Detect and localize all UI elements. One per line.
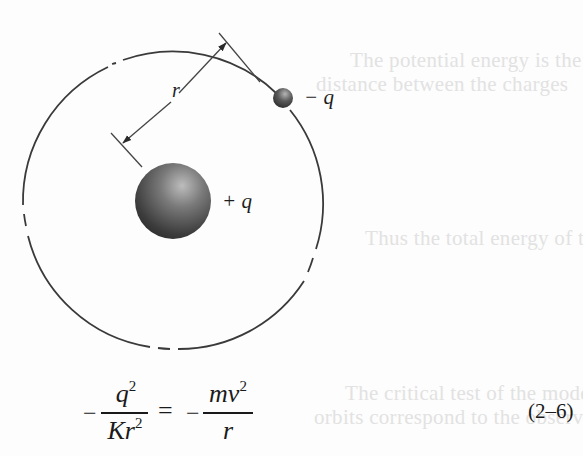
electron-sphere: [273, 88, 293, 108]
equation-number: (2–6): [528, 399, 574, 424]
equals-sign: =: [158, 396, 173, 426]
lhs-numerator: q2: [106, 379, 146, 409]
rhs-fraction-bar: [203, 412, 253, 414]
radius-label: r: [172, 79, 180, 102]
lhs-denominator: Kr2: [100, 416, 150, 446]
textbook-page: The potential energy is the product of t…: [0, 0, 583, 456]
radius-tick-bottom: [111, 133, 142, 167]
rhs-denominator: r: [203, 416, 253, 446]
radius-arrow-up: [179, 43, 226, 93]
lhs-fraction-bar: [101, 412, 148, 414]
radius-arrow-down: [123, 102, 171, 143]
radius-tick-top: [219, 33, 260, 82]
electron-charge-label: − q: [304, 85, 334, 110]
rhs-minus-sign: −: [186, 400, 200, 427]
nucleus-sphere: [135, 163, 211, 239]
nucleus-charge-label: + q: [222, 189, 252, 214]
force-balance-equation: − q2 Kr2 = − mv2 r: [82, 378, 272, 450]
lhs-minus-sign: −: [83, 400, 97, 427]
rhs-numerator: mv2: [202, 379, 254, 409]
